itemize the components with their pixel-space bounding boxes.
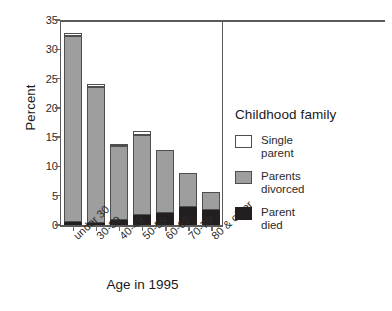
bar — [64, 33, 82, 225]
bar-group — [60, 20, 222, 225]
legend-swatch-single — [235, 135, 252, 148]
legend-label-line1: Parent — [261, 206, 295, 219]
bar — [110, 144, 128, 225]
bar-segment-single — [133, 131, 151, 135]
legend-label-line1: Single — [261, 134, 294, 147]
x-axis-title: Age in 1995 — [60, 277, 225, 292]
y-axis-title: Percent — [23, 48, 38, 168]
legend-swatch-died — [235, 207, 252, 220]
bar — [133, 131, 151, 225]
legend-label-line2: died — [261, 219, 295, 232]
legend-item-single: Singleparent — [235, 134, 385, 159]
legend-label-line2: divorced — [261, 183, 304, 196]
bar-segment-divorced — [179, 173, 197, 207]
bar-segment-divorced — [64, 36, 82, 222]
legend: Childhood family SingleparentParentsdivo… — [235, 107, 385, 242]
stacked-bar-chart: Percent 05101520253035 under 3030-3940-4… — [0, 0, 392, 311]
legend-label-line2: parent — [261, 147, 294, 160]
legend-item-divorced: Parentsdivorced — [235, 170, 385, 195]
legend-swatch-divorced — [235, 171, 252, 184]
bar-segment-divorced — [156, 150, 174, 213]
legend-label: Parentsdivorced — [261, 170, 304, 195]
bar-segment-single — [87, 84, 105, 88]
legend-title: Childhood family — [235, 107, 385, 122]
bar-segment-divorced — [110, 146, 128, 220]
legend-label: Singleparent — [261, 134, 294, 159]
legend-label: Parentdied — [261, 206, 295, 231]
legend-label-line1: Parents — [261, 170, 304, 183]
legend-entries: SingleparentParentsdivorcedParentdied — [235, 134, 385, 231]
legend-item-died: Parentdied — [235, 206, 385, 231]
bar-segment-divorced — [202, 192, 220, 210]
bar-segment-divorced — [133, 135, 151, 215]
bar-segment-single — [64, 33, 82, 36]
bar-segment-single — [110, 144, 128, 146]
